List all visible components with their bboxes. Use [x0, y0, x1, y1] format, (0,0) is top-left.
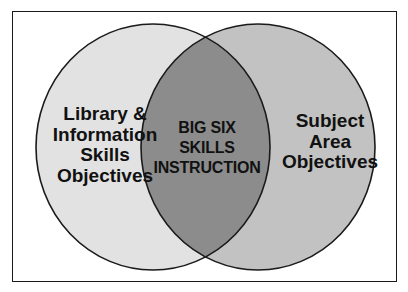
intersection-label-line: BIG SIX — [146, 118, 268, 138]
right-set-label-line: Objectives — [270, 152, 390, 173]
right-set-label: Subject Area Objectives — [270, 111, 390, 173]
intersection-label: BIG SIX SKILLS INSTRUCTION — [146, 118, 268, 178]
intersection-label-line: SKILLS — [146, 138, 268, 158]
right-set-label-line: Subject — [270, 111, 390, 132]
intersection-label-line: INSTRUCTION — [146, 158, 268, 178]
right-set-label-line: Area — [270, 132, 390, 153]
